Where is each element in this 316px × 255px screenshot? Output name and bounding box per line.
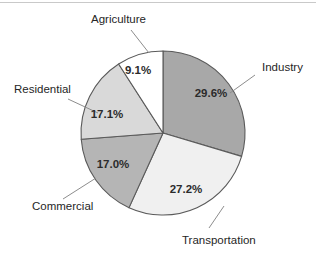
leader-line-industry — [230, 75, 255, 93]
leader-line-commercial — [63, 178, 96, 199]
slice-category-label-industry: Industry — [262, 61, 303, 73]
slice-value-label-agriculture: 9.1% — [125, 64, 151, 76]
slice-category-label-commercial: Commercial — [32, 200, 93, 212]
slice-value-label-residential: 17.1% — [91, 108, 124, 120]
slice-value-label-industry: 29.6% — [195, 87, 228, 99]
slice-category-label-transportation: Transportation — [182, 234, 256, 246]
slice-value-label-commercial: 17.0% — [97, 158, 130, 170]
slice-value-label-transportation: 27.2% — [170, 183, 203, 195]
leader-line-agriculture — [131, 30, 149, 53]
pie-slices-group — [81, 51, 245, 215]
pie-chart-figure: 29.6%27.2%17.0%17.1%9.1% IndustryTranspo… — [0, 0, 316, 255]
slice-category-label-residential: Residential — [14, 83, 71, 95]
leader-line-transportation — [209, 206, 224, 228]
pie-chart-canvas: 29.6%27.2%17.0%17.1%9.1% IndustryTranspo… — [0, 0, 316, 255]
slice-category-label-agriculture: Agriculture — [91, 13, 146, 25]
